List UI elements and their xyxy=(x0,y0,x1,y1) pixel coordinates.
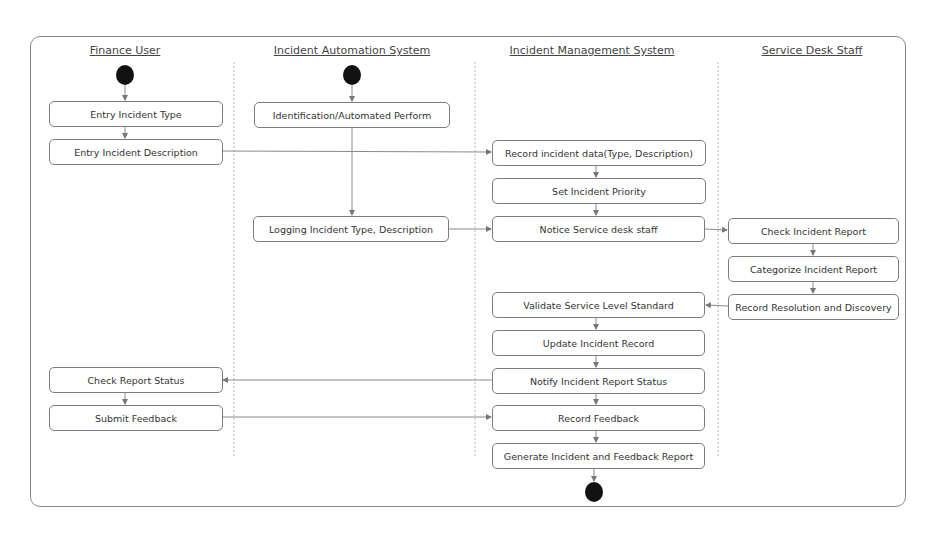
activity-record-feedback: Record Feedback xyxy=(492,405,705,431)
flow-arrows xyxy=(125,85,813,481)
activity-identification-automated-perform: Identification/Automated Perform xyxy=(254,102,450,128)
activity-entry-incident-description: Entry Incident Description xyxy=(49,139,223,165)
activity-check-incident-report: Check Incident Report xyxy=(728,218,899,244)
end-node xyxy=(585,482,603,502)
activity-submit-feedback: Submit Feedback xyxy=(49,405,223,431)
activity-record-incident-data: Record incident data(Type, Description) xyxy=(492,140,706,166)
activity-check-report-status: Check Report Status xyxy=(49,367,223,393)
activity-validate-service-level-standard: Validate Service Level Standard xyxy=(492,292,705,318)
activity-logging-incident: Logging Incident Type, Description xyxy=(253,216,449,242)
activity-entry-incident-type: Entry Incident Type xyxy=(49,101,223,127)
start-node-finance xyxy=(116,65,134,85)
activity-update-incident-record: Update Incident Record xyxy=(492,330,705,356)
lane-title-finance-user: Finance User xyxy=(90,44,161,57)
activity-set-incident-priority: Set Incident Priority xyxy=(492,178,706,204)
activity-record-resolution-discovery: Record Resolution and Discovery xyxy=(728,294,899,320)
activity-notify-incident-report-status: Notify Incident Report Status xyxy=(492,368,705,394)
start-node-ias xyxy=(343,65,361,85)
lane-title-incident-automation-system: Incident Automation System xyxy=(274,44,430,57)
activity-notice-service-desk-staff: Notice Service desk staff xyxy=(492,216,705,242)
activity-categorize-incident-report: Categorize Incident Report xyxy=(728,256,899,282)
activity-generate-incident-feedback-report: Generate Incident and Feedback Report xyxy=(492,443,705,469)
lane-title-incident-management-system: Incident Management System xyxy=(510,44,675,57)
lane-title-service-desk-staff: Service Desk Staff xyxy=(762,44,863,57)
activity-diagram: Finance User Incident Automation System … xyxy=(0,0,942,535)
